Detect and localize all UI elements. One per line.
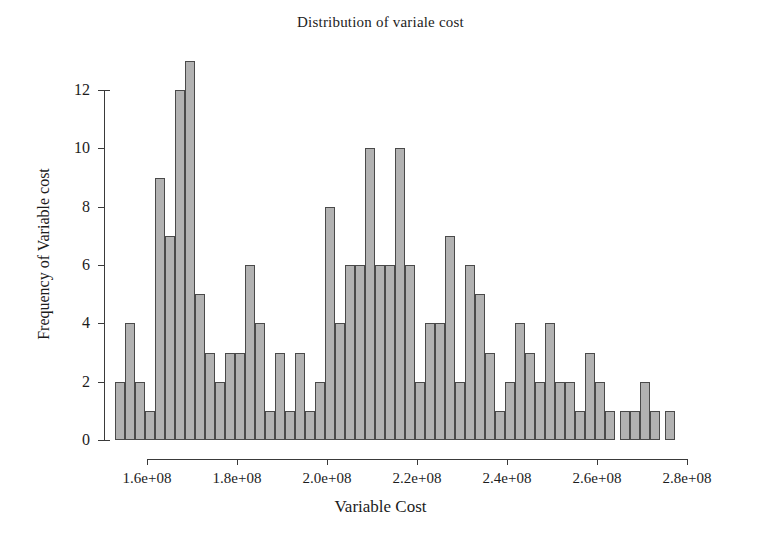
histogram-bar <box>385 265 395 440</box>
y-axis-tick-label: 0 <box>50 432 90 448</box>
y-axis-tick-label: 10 <box>50 140 90 156</box>
histogram-bar <box>335 323 345 440</box>
page-title: Distribution of variale cost <box>0 14 761 31</box>
y-axis-tick <box>98 323 104 324</box>
y-axis-cap-top <box>104 90 110 91</box>
histogram-bar <box>145 411 155 440</box>
y-axis-tick-label: 12 <box>50 82 90 98</box>
histogram-bar <box>495 411 505 440</box>
y-axis-tick-label: 8 <box>50 199 90 215</box>
histogram-bar <box>355 265 365 440</box>
histogram-bar <box>515 323 525 440</box>
histogram-figure: Distribution of variale cost 024681012 F… <box>0 0 761 546</box>
x-axis-tick <box>687 459 688 465</box>
x-axis-tick <box>597 459 598 465</box>
histogram-bar <box>215 382 225 440</box>
histogram-bar <box>315 382 325 440</box>
histogram-bar <box>405 265 415 440</box>
x-axis-tick <box>147 459 148 465</box>
histogram-bar <box>275 353 285 441</box>
histogram-bar <box>325 207 335 440</box>
histogram-bar <box>305 411 315 440</box>
y-axis-tick-label: 4 <box>50 315 90 331</box>
histogram-bar <box>545 323 555 440</box>
y-axis-title: Frequency of Variable cost <box>35 124 53 384</box>
histogram-bar <box>345 265 355 440</box>
histogram-bar <box>365 148 375 440</box>
histogram-bar <box>285 411 295 440</box>
x-axis-tick-label: 2.4e+08 <box>462 470 552 487</box>
histogram-bar <box>195 294 205 440</box>
histogram-bar <box>425 323 435 440</box>
histogram-bar <box>650 411 660 440</box>
histogram-bar <box>575 411 585 440</box>
histogram-bar <box>465 265 475 440</box>
x-axis-tick-label: 1.6e+08 <box>102 470 192 487</box>
histogram-bar <box>115 382 125 440</box>
x-axis-tick-label: 2.2e+08 <box>372 470 462 487</box>
histogram-bar <box>265 411 275 440</box>
histogram-bar <box>375 265 385 440</box>
histogram-bar <box>485 353 495 441</box>
histogram-bar <box>245 265 255 440</box>
histogram-bar <box>155 178 165 441</box>
histogram-bar <box>255 323 265 440</box>
histogram-bar <box>435 323 445 440</box>
y-axis-tick <box>98 90 104 91</box>
y-axis-cap-bottom <box>104 440 110 441</box>
y-axis-tick <box>98 148 104 149</box>
histogram-bar <box>535 382 545 440</box>
histogram-bar <box>135 382 145 440</box>
x-axis-title: Variable Cost <box>0 497 761 517</box>
plot-area <box>115 60 690 440</box>
y-axis-tick-label: 6 <box>50 257 90 273</box>
x-axis-tick <box>507 459 508 465</box>
y-axis-tick <box>98 440 104 441</box>
histogram-bar <box>205 353 215 441</box>
histogram-bar <box>640 382 650 440</box>
histogram-bar <box>395 148 405 440</box>
x-axis-tick <box>327 459 328 465</box>
x-axis-tick <box>417 459 418 465</box>
histogram-bar <box>585 353 595 441</box>
histogram-bar <box>630 411 640 440</box>
histogram-bar <box>185 61 195 440</box>
y-axis-tick <box>98 265 104 266</box>
histogram-bar <box>505 382 515 440</box>
histogram-bar <box>445 236 455 440</box>
histogram-bar <box>475 294 485 440</box>
histogram-bar <box>595 382 605 440</box>
x-axis-tick <box>237 459 238 465</box>
x-axis-tick-label: 2.0e+08 <box>282 470 372 487</box>
histogram-bar <box>225 353 235 441</box>
y-axis-tick-label: 2 <box>50 374 90 390</box>
x-axis-tick-label: 1.8e+08 <box>192 470 282 487</box>
x-axis-tick-label: 2.8e+08 <box>642 470 732 487</box>
histogram-bar <box>175 90 185 440</box>
histogram-bar <box>235 353 245 441</box>
y-axis-line <box>104 90 105 440</box>
histogram-bar <box>555 382 565 440</box>
histogram-bar <box>415 382 425 440</box>
histogram-bar <box>455 382 465 440</box>
histogram-bar <box>295 353 305 441</box>
histogram-bar <box>165 236 175 440</box>
histogram-bar <box>620 411 630 440</box>
histogram-bar <box>565 382 575 440</box>
histogram-bar <box>605 411 615 440</box>
histogram-bar <box>525 353 535 441</box>
x-axis-tick-label: 2.6e+08 <box>552 470 642 487</box>
y-axis-tick <box>98 382 104 383</box>
histogram-bar <box>665 411 675 440</box>
histogram-bar <box>125 323 135 440</box>
y-axis-tick <box>98 207 104 208</box>
